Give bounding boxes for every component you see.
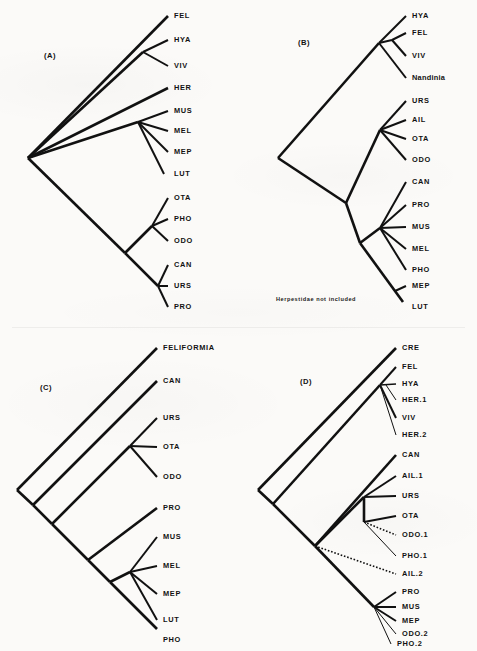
- tip-label-pro: PRO: [174, 302, 192, 311]
- tip-label-cre: CRE: [402, 343, 420, 352]
- tip-label-urs: URS: [412, 96, 430, 105]
- panel-row-divider: [12, 327, 465, 328]
- tip-label-her2: HER.2: [402, 430, 427, 439]
- branch-viv: [143, 52, 168, 66]
- branch-hya: [380, 384, 396, 385]
- tip-label-fel: FEL: [174, 11, 190, 20]
- branch-arctoid-stem: [125, 253, 158, 286]
- panel-b-branches: [278, 16, 406, 302]
- branch-ota: [364, 516, 396, 522]
- tip-label-mel: MEL: [174, 126, 192, 135]
- figure-page: (A): [0, 0, 477, 651]
- branch-hya: [143, 40, 168, 52]
- tip-label-can: CAN: [402, 450, 420, 459]
- panel-b-cladogram: (B): [240, 0, 477, 327]
- tip-label-odo2: ODO.2: [402, 629, 428, 638]
- tip-label-odo: ODO: [163, 472, 182, 481]
- panel-c-branches: [17, 348, 157, 629]
- tip-label-pho: PHO: [163, 635, 181, 644]
- tip-label-can: CAN: [412, 177, 430, 186]
- panel-b-tag: (B): [298, 38, 310, 47]
- tip-label-her: HER: [174, 83, 192, 92]
- branch-polytomy-stem: [360, 228, 380, 243]
- tip-label-pro: PRO: [402, 587, 420, 596]
- branch-her1: [386, 385, 396, 400]
- tip-label-ail: AIL: [412, 115, 426, 124]
- branch-mustelid-stem: [110, 572, 130, 582]
- panel-a-tag: (A): [44, 51, 56, 60]
- branch-arctoid-stem: [315, 497, 364, 546]
- branch-caniform-stem: [278, 158, 346, 203]
- tip-label-feliformia: FELIFORMIA: [163, 343, 215, 352]
- tip-label-odo1: ODO.1: [402, 530, 428, 539]
- panel-b-tip-labels: HYA FEL VIV Nandinia URS AIL OTA ODO CAN…: [412, 11, 446, 311]
- panel-d-tip-labels: CRE FEL HYA HER.1 VIV HER.2 CAN AIL.1 UR…: [397, 343, 428, 648]
- panel-d: (D): [240, 330, 477, 651]
- tip-label-mus: MUS: [174, 106, 192, 115]
- branch-fel: [392, 33, 406, 40]
- panel-b: (B): [240, 0, 477, 327]
- branch-nandinia: [379, 43, 406, 78]
- branch-fel: [380, 367, 396, 385]
- tip-label-nandinia: Nandinia: [412, 73, 446, 82]
- tip-label-viv: VIV: [402, 413, 416, 422]
- tip-label-pro: PRO: [412, 200, 430, 209]
- tip-label-ota: OTA: [412, 134, 429, 143]
- panel-b-note: Herpestidae not included: [276, 296, 356, 302]
- branch-lut: [138, 122, 164, 174]
- branch-arctoid-stem: [52, 446, 130, 524]
- branch-her2: [380, 385, 396, 435]
- panel-c-tip-labels: FELIFORMIA CAN URS OTA ODO PRO MUS MEL M…: [163, 343, 215, 644]
- branch-mep: [395, 286, 406, 291]
- branch-viv: [392, 40, 406, 56]
- tip-label-urs: URS: [402, 491, 420, 500]
- branch-backbone-4: [88, 560, 110, 582]
- branch-pho1: [364, 522, 396, 556]
- tip-label-odo: ODO: [412, 155, 431, 164]
- branch-pro: [374, 592, 396, 607]
- branch-can: [33, 381, 157, 505]
- panel-c-tag: (C): [40, 383, 52, 392]
- tip-label-can: CAN: [163, 376, 181, 385]
- tip-label-mus: MUS: [412, 222, 430, 231]
- tip-label-mep: MEP: [402, 616, 420, 625]
- tip-label-mel: MEL: [412, 244, 430, 253]
- tip-label-fel: FEL: [402, 362, 418, 371]
- branch-odo: [130, 446, 157, 477]
- branch-viv: [380, 385, 396, 418]
- branch-her: [28, 88, 168, 158]
- tip-label-mep: MEP: [163, 589, 181, 598]
- branch-arctoid-stem: [346, 130, 380, 203]
- branch-feliform-stem: [273, 385, 380, 504]
- tip-label-pho1: PHO.1: [402, 551, 427, 560]
- branch-can: [380, 182, 406, 228]
- tip-label-mus: MUS: [163, 532, 181, 541]
- panel-a: (A): [0, 0, 240, 327]
- branch-urs: [364, 496, 396, 497]
- branch-ota: [130, 446, 157, 447]
- tip-label-hya: HYA: [174, 35, 191, 44]
- tip-label-hya: HYA: [402, 379, 419, 388]
- tip-label-urs: URS: [174, 281, 192, 290]
- panel-d-tag: (D): [300, 377, 312, 386]
- panel-d-cladogram: (D): [240, 330, 477, 651]
- tip-label-urs: URS: [163, 413, 181, 422]
- tip-label-her1: HER.1: [402, 395, 427, 404]
- tip-label-mep: MEP: [174, 147, 192, 156]
- branch-mus: [138, 111, 168, 122]
- tip-label-pro: PRO: [163, 503, 181, 512]
- panel-a-cladogram: (A): [0, 0, 240, 327]
- branch-lower-stem: [315, 546, 374, 607]
- tip-label-ail2: AIL.2: [402, 569, 423, 578]
- branch-fel: [28, 16, 168, 158]
- branch-lower-stem: [346, 203, 360, 243]
- branch-pro: [380, 205, 406, 228]
- tip-label-pho: PHO: [412, 265, 430, 274]
- tip-label-viv: VIV: [174, 61, 188, 70]
- panel-c-cladogram: (C): [0, 330, 240, 651]
- tip-label-viv: VIV: [412, 51, 426, 60]
- branch-mel: [380, 228, 406, 249]
- tip-label-lut: LUT: [174, 169, 190, 178]
- tip-label-mep: MEP: [412, 281, 430, 290]
- panel-d-branches: [258, 348, 396, 644]
